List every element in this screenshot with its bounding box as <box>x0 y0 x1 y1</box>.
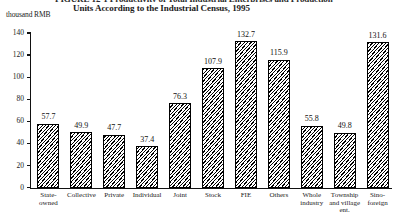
bar-value-label: 132.7 <box>226 31 266 39</box>
y-axis-tick-label-text: 0 <box>2 184 24 192</box>
x-axis-category-label-line: Private <box>96 192 132 200</box>
bar-value-label: 57.7 <box>28 113 68 121</box>
figure-container: FIGURE 12-1 Productivity of Total Indust… <box>0 0 399 223</box>
x-axis-category-label: Collective <box>63 192 99 200</box>
y-axis-tick-mark <box>27 143 31 144</box>
x-axis-category-label-line: industry <box>294 200 330 208</box>
bar <box>235 41 257 188</box>
bar-value-label: 107.9 <box>193 58 233 66</box>
y-axis-tick-mark <box>27 99 31 100</box>
x-axis-category-label-line: FIE <box>228 192 264 200</box>
x-axis-category-label-line: Collective <box>63 192 99 200</box>
x-axis-baseline <box>30 188 392 189</box>
x-axis-category-label-line: foreign <box>360 200 396 208</box>
x-axis-category-label: State-owned <box>30 192 66 207</box>
bar <box>301 126 323 188</box>
bar-value-label: 47.7 <box>94 124 134 132</box>
bar-value-label: 37.4 <box>127 136 167 144</box>
x-axis-category-label: Wholeindustry <box>294 192 330 207</box>
y-axis-tick-label-text: 140 <box>2 29 24 37</box>
bar <box>268 60 290 188</box>
x-axis-category-label: Individual <box>129 192 165 200</box>
bar-value-label: 76.3 <box>160 93 200 101</box>
x-axis-category-label-line: Individual <box>129 192 165 200</box>
y-axis-tick-label: 60 <box>0 117 24 125</box>
y-axis-tick-mark <box>27 77 31 78</box>
bar-value-label: 49.8 <box>325 122 365 130</box>
x-axis-category-label-line: Others <box>261 192 297 200</box>
bar <box>169 103 191 187</box>
x-axis-category-label: FIE <box>228 192 264 200</box>
bar-value-label: 115.9 <box>259 49 299 57</box>
y-axis-tick-mark <box>27 165 31 166</box>
y-axis-tick-label-text: 120 <box>2 51 24 59</box>
x-axis-category-label: Others <box>261 192 297 200</box>
y-axis-tick-label: 140 <box>0 29 24 37</box>
y-axis-tick-label: 80 <box>0 95 24 103</box>
y-axis-tick-label-text: 40 <box>2 139 24 147</box>
bar <box>202 68 224 187</box>
bar <box>367 42 389 187</box>
bar <box>103 135 125 188</box>
y-axis-tick-label: 20 <box>0 162 24 170</box>
y-axis-tick-label: 0 <box>0 184 24 192</box>
y-axis-tick-mark <box>27 54 31 55</box>
x-axis-category-label: Private <box>96 192 132 200</box>
y-axis-tick-label-text: 100 <box>2 73 24 81</box>
y-axis-tick-label-text: 60 <box>2 117 24 125</box>
x-axis-category-label: Stock <box>195 192 231 200</box>
y-axis-tick-label-text: 20 <box>2 162 24 170</box>
bar <box>334 133 356 188</box>
x-axis-category-label-line: Joint <box>162 192 198 200</box>
y-axis-tick-label: 120 <box>0 51 24 59</box>
y-axis-tick-mark <box>27 187 31 188</box>
x-axis-category-label: Townshipand villageent. <box>327 192 363 215</box>
figure-title-line-1: FIGURE 12-1 Productivity of Total Indust… <box>55 0 385 2</box>
x-axis-category-label: Sino-foreign <box>360 192 396 207</box>
y-axis-tick-label-text: 80 <box>2 95 24 103</box>
x-axis-category-label-line: owned <box>30 200 66 208</box>
bar <box>136 146 158 187</box>
y-axis-tick-mark <box>27 32 31 33</box>
bar <box>37 124 59 188</box>
y-axis-tick-label: 100 <box>0 73 24 81</box>
y-axis-tick-label: 40 <box>0 139 24 147</box>
x-axis-category-label-line: Stock <box>195 192 231 200</box>
bar-value-label: 131.6 <box>358 32 398 40</box>
bar <box>70 132 92 187</box>
y-axis-unit-label: thousand RMB <box>6 10 50 19</box>
figure-title-line-2: Units According to the Industrial Census… <box>73 3 250 13</box>
x-axis-category-label-line: ent. <box>327 207 363 215</box>
x-axis-category-label: Joint <box>162 192 198 200</box>
